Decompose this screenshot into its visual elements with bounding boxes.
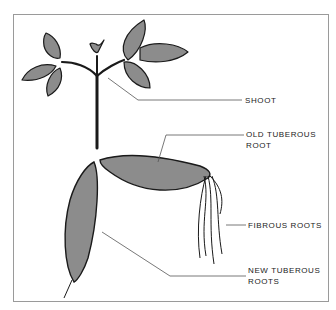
fibrous-root — [210, 176, 222, 214]
leader-old-root — [158, 135, 244, 162]
bud — [90, 40, 104, 53]
leader-new-root — [102, 232, 246, 276]
fibrous-root — [204, 176, 206, 256]
fibrous-root — [212, 176, 222, 254]
leaf — [44, 33, 61, 58]
leader-shoot — [108, 78, 242, 100]
leaf — [124, 62, 150, 88]
branch — [62, 62, 97, 76]
old-tuberous-root — [100, 155, 210, 190]
plant-illustration — [0, 0, 336, 310]
label-old-tuberous-root-2: ROOT — [246, 141, 272, 151]
branch — [97, 60, 124, 76]
new-tuberous-root — [65, 162, 97, 282]
label-fibrous-roots: FIBROUS ROOTS — [248, 221, 322, 231]
leaf — [140, 44, 188, 62]
label-new-tuberous-roots-1: NEW TUBEROUS — [248, 266, 320, 276]
root-tail — [64, 280, 72, 298]
label-new-tuberous-roots-2: ROOTS — [248, 277, 279, 287]
label-old-tuberous-root-1: OLD TUBEROUS — [246, 130, 316, 140]
fibrous-root — [208, 176, 214, 264]
label-shoot: SHOOT — [245, 96, 276, 106]
